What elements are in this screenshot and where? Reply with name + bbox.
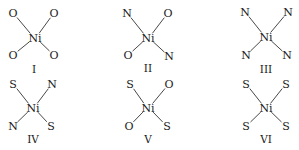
ligand-atom-top-left: N bbox=[122, 7, 132, 20]
complex-IV: NiSNNSIV bbox=[8, 78, 57, 145]
ligand-atom-bottom-left: O bbox=[123, 49, 132, 62]
central-atom: Ni bbox=[259, 31, 273, 44]
ligand-atom-top-right: O bbox=[163, 7, 172, 20]
bond-line bbox=[39, 18, 50, 33]
ligand-atom-top-right: S bbox=[282, 78, 290, 91]
central-atom: Ni bbox=[259, 102, 273, 115]
complex-label: I bbox=[32, 63, 36, 75]
ligand-atom-bottom-right: S bbox=[163, 120, 171, 133]
complex-label: V bbox=[143, 133, 152, 145]
ligand-atom-bottom-right: S bbox=[282, 120, 290, 133]
bond-line bbox=[40, 42, 49, 51]
complex-label: II bbox=[144, 62, 152, 74]
ligand-atom-top-left: S bbox=[9, 78, 17, 91]
ligand-atom-bottom-right: O bbox=[49, 49, 58, 62]
ligand-atom-top-left: N bbox=[240, 6, 250, 19]
bond-line bbox=[153, 42, 164, 52]
central-atom: Ni bbox=[141, 32, 155, 45]
complex-I: NiOOOOI bbox=[8, 7, 58, 75]
complex-label: VI bbox=[259, 133, 272, 145]
ligand-atom-bottom-left: N bbox=[8, 120, 18, 133]
ligand-atom-bottom-left: O bbox=[124, 120, 133, 133]
ligand-atom-top-right: N bbox=[47, 78, 57, 91]
ligand-atom-top-right: O bbox=[49, 7, 58, 20]
complex-III: NiNNNNIII bbox=[240, 6, 293, 75]
ligand-atom-bottom-left: S bbox=[242, 120, 250, 133]
ligand-atom-bottom-left: O bbox=[8, 49, 17, 62]
ligand-atom-top-right: N bbox=[283, 6, 293, 19]
central-atom: Ni bbox=[26, 102, 40, 115]
bond-line bbox=[271, 41, 282, 51]
complex-label: III bbox=[260, 63, 272, 75]
complex-label: IV bbox=[27, 133, 39, 145]
ligand-atom-bottom-right: S bbox=[47, 120, 55, 133]
bond-line bbox=[271, 17, 284, 33]
ligand-atom-bottom-right: N bbox=[282, 49, 292, 62]
ligand-atom-top-left: S bbox=[126, 78, 134, 91]
ligand-atom-bottom-right: N bbox=[164, 50, 174, 63]
ligand-atom-top-right: O bbox=[164, 78, 173, 91]
ligand-atom-top-left: S bbox=[242, 78, 250, 91]
central-atom: Ni bbox=[28, 32, 42, 45]
ligand-atom-top-left: O bbox=[8, 7, 17, 20]
complex-II: NiNOONII bbox=[122, 7, 174, 74]
ligand-atom-bottom-left: N bbox=[241, 49, 251, 62]
complex-V: NiSOOSV bbox=[124, 78, 173, 145]
complex-VI: NiSSSSVI bbox=[242, 78, 290, 145]
nickel-complexes-diagram: NiOOOOINiNOONIINiNNNNIIINiSNNSIVNiSOOSVN… bbox=[0, 0, 299, 150]
central-atom: Ni bbox=[141, 102, 155, 115]
bond-line bbox=[152, 18, 164, 34]
bond-line bbox=[271, 112, 281, 122]
